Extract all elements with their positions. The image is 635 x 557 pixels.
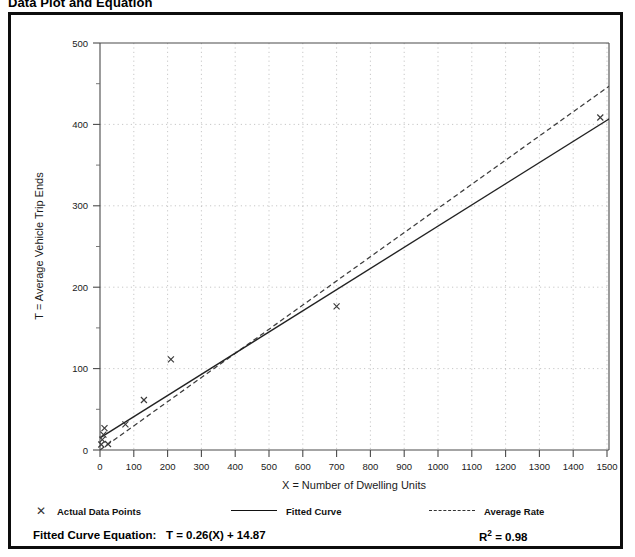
axis-lines <box>100 43 609 450</box>
r2-exponent: 2 <box>487 529 492 538</box>
r2-equals-value: = 0.98 <box>495 531 527 543</box>
x-tick-label: 800 <box>362 461 378 472</box>
data-point-marker <box>597 115 603 121</box>
x-tick-label: 1000 <box>427 461 448 472</box>
y-axis-minor-ticks <box>96 84 100 410</box>
y-tick-label: 300 <box>72 200 88 211</box>
equation-label: Fitted Curve Equation: <box>33 529 156 541</box>
data-point-marker <box>334 303 340 309</box>
data-plot-svg: 0 100 200 300 400 500 <box>11 15 626 493</box>
x-axis-title: X = Number of Dwelling Units <box>282 479 426 491</box>
equation-row: Fitted Curve Equation: T = 0.26(X) + 14.… <box>11 527 626 553</box>
data-point-marker <box>105 441 111 447</box>
x-tick-label: 900 <box>396 461 412 472</box>
series-average-rate-line <box>100 76 624 451</box>
page-title: Data Plot and Equation <box>8 0 152 10</box>
data-point-marker <box>141 397 147 403</box>
legend-item-label: Fitted Curve <box>286 506 341 517</box>
x-axis-major-ticks <box>100 450 607 457</box>
x-tick-label: 400 <box>227 461 243 472</box>
times-marker-icon: ✕ <box>33 504 49 518</box>
legend-item-label: Actual Data Points <box>57 506 141 517</box>
x-tick-label: 1500 <box>596 461 617 472</box>
legend-item-average-rate: Average Rate <box>429 499 544 523</box>
x-axis-tick-labels: 0 100 200 300 400 500 600 700 800 900 10… <box>97 461 617 472</box>
legend-item-label: Average Rate <box>484 506 544 517</box>
equation-formula: T = 0.26(X) + 14.87 <box>166 529 266 541</box>
legend-item-actual-data-points: ✕ Actual Data Points <box>33 499 141 523</box>
x-tick-label: 200 <box>160 461 176 472</box>
solid-line-icon <box>231 504 277 518</box>
x-tick-label: 0 <box>97 461 102 472</box>
x-tick-label: 300 <box>193 461 209 472</box>
fitted-curve-equation: Fitted Curve Equation: T = 0.26(X) + 14.… <box>33 529 266 541</box>
legend-item-fitted-curve: Fitted Curve <box>231 499 341 523</box>
chart-panel: 0 100 200 300 400 500 <box>8 12 623 549</box>
y-tick-label: 200 <box>72 282 88 293</box>
x-tick-label: 1200 <box>495 461 516 472</box>
dashed-line-icon <box>429 504 475 518</box>
x-tick-label: 1100 <box>462 461 482 472</box>
x-tick-label: 500 <box>261 461 277 472</box>
chart-legend: ✕ Actual Data Points Fitted Curve Averag… <box>11 499 626 523</box>
chart-plot-area: 0 100 200 300 400 500 <box>11 15 626 493</box>
y-tick-label: 100 <box>72 363 88 374</box>
series-fitted-curve-line <box>100 110 624 438</box>
y-tick-label: 500 <box>72 38 88 49</box>
y-axis-title: T = Average Vehicle Trip Ends <box>33 172 45 320</box>
data-point-marker <box>102 425 108 431</box>
y-axis-tick-labels: 0 100 200 300 400 500 <box>72 38 88 456</box>
x-tick-label: 1300 <box>529 461 550 472</box>
x-tick-label: 1400 <box>563 461 584 472</box>
r-squared-value: R2 = 0.98 <box>479 529 527 543</box>
y-tick-label: 0 <box>83 445 88 456</box>
x-tick-label: 700 <box>329 461 345 472</box>
y-tick-label: 400 <box>72 119 88 130</box>
x-tick-label: 600 <box>295 461 311 472</box>
data-point-marker <box>168 356 174 362</box>
x-tick-label: 100 <box>126 461 142 472</box>
grid-horizontal <box>100 124 609 368</box>
grid-vertical <box>134 43 607 450</box>
